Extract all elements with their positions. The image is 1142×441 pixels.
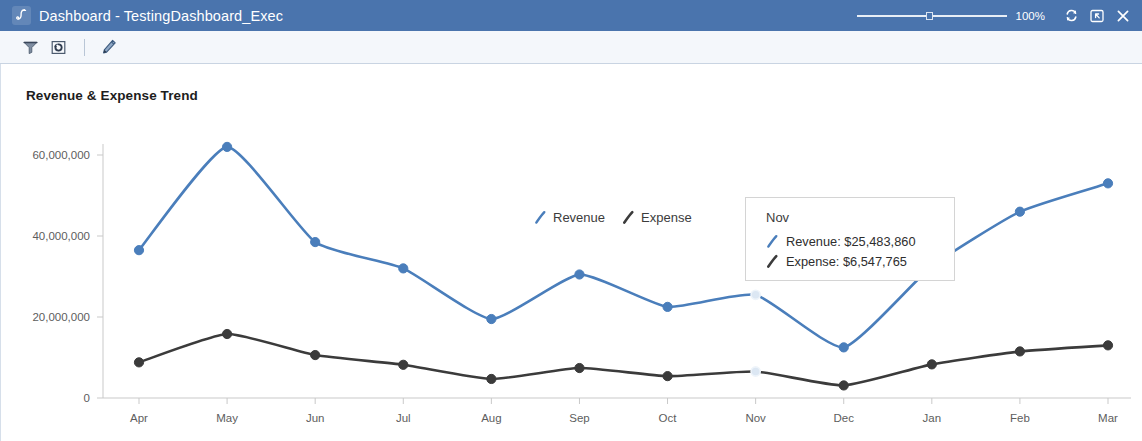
data-point[interactable] — [575, 270, 584, 279]
close-icon[interactable] — [1110, 3, 1136, 29]
series-line-revenue — [139, 147, 1108, 348]
data-point[interactable] — [487, 374, 496, 383]
tooltip-value-expense: Expense: $6,547,765 — [786, 254, 907, 269]
x-axis-tick-label: Jul — [396, 412, 411, 424]
filter-icon[interactable] — [16, 34, 44, 60]
data-point[interactable] — [222, 142, 231, 151]
data-point[interactable] — [927, 360, 936, 369]
data-point[interactable] — [311, 237, 320, 246]
data-point[interactable] — [311, 350, 320, 359]
x-axis-tick-label: Aug — [481, 412, 501, 424]
data-point-highlighted[interactable] — [751, 290, 760, 299]
data-point[interactable] — [399, 360, 408, 369]
x-axis-tick-label: Apr — [130, 412, 148, 424]
legend-label-revenue: Revenue — [553, 210, 605, 225]
legend-item-expense[interactable]: Expense — [622, 210, 692, 225]
toolbar — [0, 31, 1142, 64]
refresh-dashboard-icon[interactable] — [44, 34, 72, 60]
legend-marker-expense — [622, 210, 635, 225]
data-point[interactable] — [575, 363, 584, 372]
edit-icon[interactable] — [95, 34, 123, 60]
y-axis-tick-label: 60,000,000 — [32, 149, 90, 161]
data-point[interactable] — [663, 372, 672, 381]
data-point[interactable] — [663, 302, 672, 311]
x-axis-tick-label: Sep — [569, 412, 589, 424]
y-axis-tick-label: 20,000,000 — [32, 311, 90, 323]
x-axis-tick-label: Jan — [923, 412, 942, 424]
data-point[interactable] — [1015, 347, 1024, 356]
data-point[interactable] — [1103, 341, 1112, 350]
jasper-logo-icon — [12, 6, 31, 25]
x-axis-tick-label: Oct — [659, 412, 678, 424]
revenue-expense-chart[interactable]: 020,000,00040,000,00060,000,000AprMayJun… — [1, 64, 1142, 441]
toolbar-separator — [84, 39, 85, 56]
tooltip-row-revenue: Revenue: $25,483,860 — [766, 234, 940, 249]
legend-marker-revenue — [534, 210, 547, 225]
zoom-slider[interactable] — [857, 9, 1007, 23]
y-axis-tick-label: 0 — [84, 392, 90, 404]
x-axis-tick-label: Jun — [306, 412, 325, 424]
series-revenue — [134, 142, 1112, 352]
legend-label-expense: Expense — [641, 210, 692, 225]
export-icon[interactable] — [1084, 3, 1110, 29]
dashboard-window: Dashboard - TestingDashboard_Exec 100% — [0, 0, 1142, 441]
chart-svg: 020,000,00040,000,00060,000,000AprMayJun… — [1, 64, 1142, 441]
data-point[interactable] — [134, 246, 143, 255]
data-point-highlighted[interactable] — [751, 367, 760, 376]
data-point[interactable] — [222, 329, 231, 338]
refresh-icon[interactable] — [1058, 3, 1084, 29]
x-axis-tick-label: Feb — [1010, 412, 1030, 424]
tooltip-value-revenue: Revenue: $25,483,860 — [786, 234, 916, 249]
data-point[interactable] — [134, 358, 143, 367]
data-point[interactable] — [1103, 179, 1112, 188]
x-axis-tick-label: Nov — [745, 412, 766, 424]
x-axis-tick-label: May — [216, 412, 238, 424]
data-point[interactable] — [839, 343, 848, 352]
series-expense — [134, 329, 1112, 390]
data-point[interactable] — [839, 381, 848, 390]
tooltip-marker-expense — [766, 254, 779, 269]
dashboard-content: Revenue & Expense Trend 020,000,00040,00… — [0, 64, 1142, 441]
data-point[interactable] — [487, 314, 496, 323]
y-axis-tick-label: 40,000,000 — [32, 230, 90, 242]
x-axis-tick-label: Dec — [834, 412, 855, 424]
legend-item-revenue[interactable]: Revenue — [534, 210, 605, 225]
window-title: Dashboard - TestingDashboard_Exec — [39, 8, 283, 24]
chart-tooltip: Nov Revenue: $25,483,860 Expense: $6,547… — [745, 197, 955, 281]
zoom-slider-thumb[interactable] — [926, 12, 933, 20]
data-point[interactable] — [1015, 207, 1024, 216]
tooltip-header: Nov — [766, 210, 940, 225]
chart-legend: Revenue Expense — [534, 210, 692, 225]
title-bar: Dashboard - TestingDashboard_Exec 100% — [0, 0, 1142, 31]
x-axis-tick-label: Mar — [1098, 412, 1118, 424]
data-point[interactable] — [399, 264, 408, 273]
tooltip-row-expense: Expense: $6,547,765 — [766, 254, 940, 269]
zoom-level-label: 100% — [1016, 10, 1045, 22]
tooltip-marker-revenue — [766, 234, 779, 249]
series-line-expense — [139, 334, 1108, 385]
